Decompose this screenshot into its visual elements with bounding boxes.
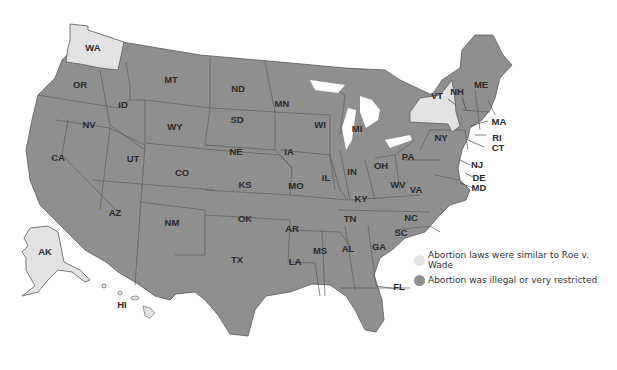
label-MN: MN xyxy=(275,98,290,109)
label-MT: MT xyxy=(164,74,178,85)
label-MI: MI xyxy=(352,123,363,134)
legend-label-legal: Abortion laws were similar to Roe v. Wad… xyxy=(428,250,617,270)
restricted-swatch-icon xyxy=(414,275,425,286)
label-IA: IA xyxy=(284,146,294,157)
label-RI: RI xyxy=(492,132,502,143)
label-UT: UT xyxy=(127,153,140,164)
label-AZ: AZ xyxy=(109,207,122,218)
label-WV: WV xyxy=(390,179,406,190)
label-TX: TX xyxy=(231,254,244,265)
us-map: WA OR ID MT WY ND SD NE KS OK TX NV CA U… xyxy=(0,0,617,370)
label-MO: MO xyxy=(288,180,303,191)
mainland-restricted xyxy=(26,35,512,336)
label-OK: OK xyxy=(238,213,252,224)
label-MS: MS xyxy=(313,245,327,256)
label-CT: CT xyxy=(492,142,505,153)
label-SD: SD xyxy=(230,114,243,125)
label-NC: NC xyxy=(404,212,418,223)
label-KY: KY xyxy=(354,193,368,204)
label-IL: IL xyxy=(322,172,331,183)
label-NM: NM xyxy=(165,217,180,228)
label-HI: HI xyxy=(117,299,127,310)
label-FL: FL xyxy=(393,281,405,292)
label-SC: SC xyxy=(394,227,407,238)
label-MD: MD xyxy=(472,182,487,193)
label-IN: IN xyxy=(347,166,357,177)
label-OH: OH xyxy=(374,160,388,171)
label-WA: WA xyxy=(85,42,100,53)
legal-swatch-icon xyxy=(414,255,425,266)
legend-item-legal: Abortion laws were similar to Roe v. Wad… xyxy=(414,250,617,270)
label-VT: VT xyxy=(431,90,443,101)
label-GA: GA xyxy=(372,241,386,252)
label-ID: ID xyxy=(118,99,128,110)
label-AL: AL xyxy=(342,243,355,254)
label-CO: CO xyxy=(175,167,189,178)
label-LA: LA xyxy=(289,256,302,267)
label-WI: WI xyxy=(314,119,326,130)
label-AK: AK xyxy=(38,246,52,257)
label-AR: AR xyxy=(285,223,299,234)
restricted-states xyxy=(26,35,512,336)
label-NY: NY xyxy=(434,132,448,143)
label-PA: PA xyxy=(402,151,415,162)
legend-label-restricted: Abortion was illegal or very restricted xyxy=(428,275,597,285)
label-NE: NE xyxy=(229,146,242,157)
label-NV: NV xyxy=(82,119,96,130)
label-NJ: NJ xyxy=(471,159,483,170)
label-NH: NH xyxy=(450,86,464,97)
legend-item-restricted: Abortion was illegal or very restricted xyxy=(414,270,617,290)
label-ND: ND xyxy=(231,83,245,94)
legend: Abortion laws were similar to Roe v. Wad… xyxy=(414,250,617,290)
label-CA: CA xyxy=(51,152,65,163)
label-KS: KS xyxy=(238,179,251,190)
label-ME: ME xyxy=(474,79,488,90)
label-MA: MA xyxy=(492,116,507,127)
label-WY: WY xyxy=(167,121,183,132)
label-TN: TN xyxy=(344,213,357,224)
label-OR: OR xyxy=(73,79,87,90)
label-VA: VA xyxy=(410,184,423,195)
